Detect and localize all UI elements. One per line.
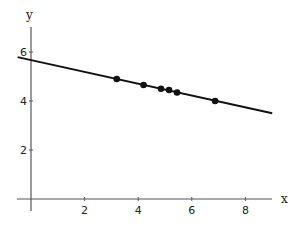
x-tick-label: 2	[81, 204, 88, 217]
data-points	[113, 76, 218, 105]
data-point	[174, 89, 181, 96]
y-tick-label: 4	[20, 95, 27, 108]
x-tick-label: 6	[188, 204, 195, 217]
data-point	[166, 87, 173, 94]
y-tick-label: 2	[20, 144, 27, 157]
x-axis-label: x	[281, 192, 288, 206]
scatter-plot: 2468246 y x	[0, 0, 303, 227]
data-point	[113, 76, 120, 83]
data-point	[140, 82, 147, 89]
data-point	[158, 85, 165, 92]
x-tick-label: 4	[135, 204, 142, 217]
axes	[17, 27, 272, 211]
y-axis-label: y	[25, 8, 33, 22]
data-point	[212, 98, 219, 105]
axis-ticks: 2468246	[20, 46, 249, 217]
x-tick-label: 8	[242, 204, 249, 217]
